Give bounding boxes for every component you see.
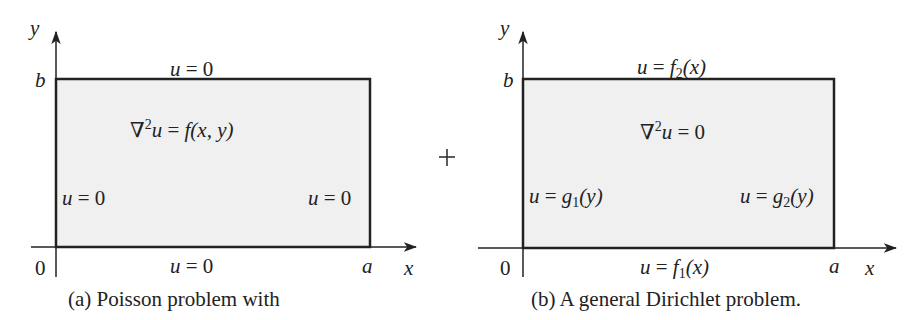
plus-operator-icon [439, 149, 455, 166]
tick-label-b-b: b [503, 70, 514, 91]
origin-label-b: 0 [500, 258, 511, 279]
left-boundary-condition-a: u = 0 [62, 188, 105, 209]
panel-a-graphic [31, 32, 416, 277]
y-axis-label-a: y [30, 18, 39, 39]
caption-b: (b) A general Dirichlet problem. [531, 289, 801, 310]
caption-a: (a) Poisson problem with [68, 289, 280, 310]
x-axis-label-b: x [865, 258, 874, 279]
pde-equation-a: ∇2u = f(x, y) [130, 118, 233, 141]
left-boundary-condition-b: u = g1(y) [529, 186, 603, 210]
tick-label-a-a: a [362, 256, 373, 277]
x-axis-label-a: x [404, 258, 413, 279]
diagram-canvas [0, 0, 919, 320]
right-boundary-condition-a: u = 0 [308, 188, 351, 209]
y-axis-label-b: y [500, 18, 509, 39]
bottom-boundary-condition-a: u = 0 [170, 256, 213, 277]
top-boundary-condition-b: u = f2(x) [637, 57, 706, 81]
tick-label-a-b: a [829, 256, 840, 277]
origin-label-a: 0 [35, 258, 46, 279]
domain-rectangle-b [523, 79, 834, 248]
top-boundary-condition-a: u = 0 [170, 59, 213, 80]
bottom-boundary-condition-b: u = f1(x) [640, 257, 709, 281]
domain-rectangle-a [56, 79, 370, 247]
right-boundary-condition-b: u = g2(y) [740, 186, 814, 210]
pde-equation-b: ∇2u = 0 [640, 120, 705, 143]
tick-label-b-a: b [35, 70, 46, 91]
